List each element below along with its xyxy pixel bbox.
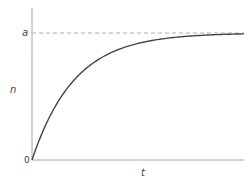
saturation-curve-chart: a n 0 t [0, 0, 251, 184]
y-axis-label: n [10, 84, 16, 95]
data-curve [32, 34, 244, 160]
x-axis-label: t [141, 167, 146, 178]
asymptote-label: a [22, 27, 28, 38]
origin-label: 0 [24, 155, 30, 165]
